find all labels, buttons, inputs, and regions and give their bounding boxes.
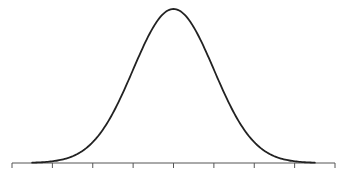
bell-curve-chart: [0, 0, 351, 182]
x-axis: [12, 163, 335, 168]
normal-curve-line: [32, 9, 315, 163]
